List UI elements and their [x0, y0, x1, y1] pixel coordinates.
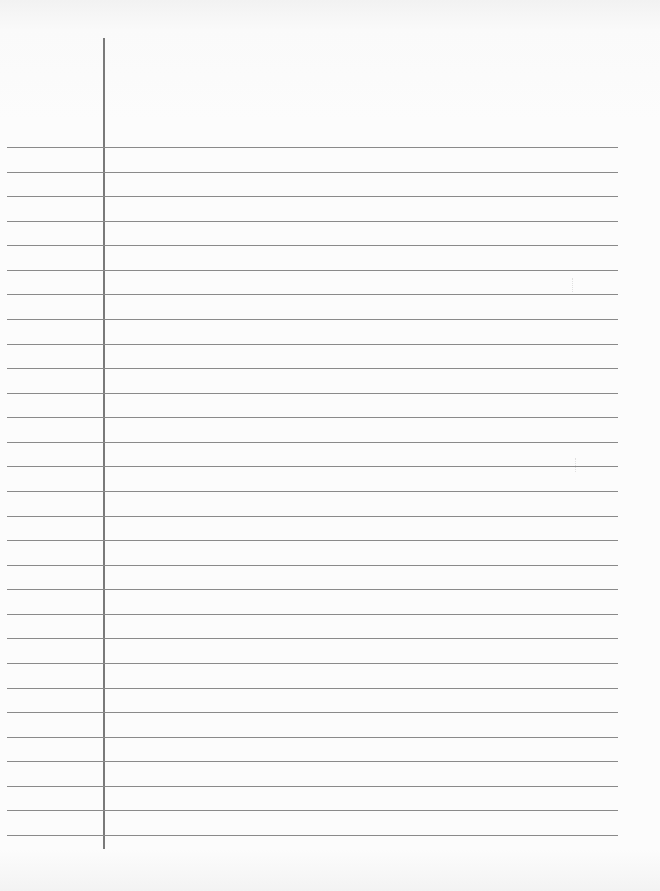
ruled-line	[7, 786, 618, 787]
ruled-line	[7, 712, 618, 713]
ruled-line	[7, 466, 618, 467]
margin-line	[103, 38, 105, 849]
ruled-line	[7, 589, 618, 590]
ruled-line	[7, 196, 618, 197]
ruled-line	[7, 417, 618, 418]
ruled-line	[7, 540, 618, 541]
ruled-line	[7, 319, 618, 320]
ruled-line	[7, 245, 618, 246]
ruled-line	[7, 270, 618, 271]
ruled-line	[7, 614, 618, 615]
ruled-line	[7, 393, 618, 394]
faint-mark	[572, 278, 578, 292]
ruled-line	[7, 737, 618, 738]
ruled-line	[7, 835, 618, 836]
ruled-line	[7, 442, 618, 443]
ruled-line	[7, 368, 618, 369]
ruled-line	[7, 516, 618, 517]
ruled-line	[7, 294, 618, 295]
ruled-line	[7, 688, 618, 689]
ruled-line	[7, 565, 618, 566]
ruled-line	[7, 663, 618, 664]
ruled-line	[7, 761, 618, 762]
faint-mark	[575, 458, 581, 472]
ruled-line	[7, 344, 618, 345]
ruled-line	[7, 221, 618, 222]
ruled-line	[7, 172, 618, 173]
ruled-line	[7, 491, 618, 492]
ruled-line	[7, 810, 618, 811]
lined-paper-page	[0, 0, 660, 891]
ruled-line	[7, 638, 618, 639]
ruled-line	[7, 147, 618, 148]
